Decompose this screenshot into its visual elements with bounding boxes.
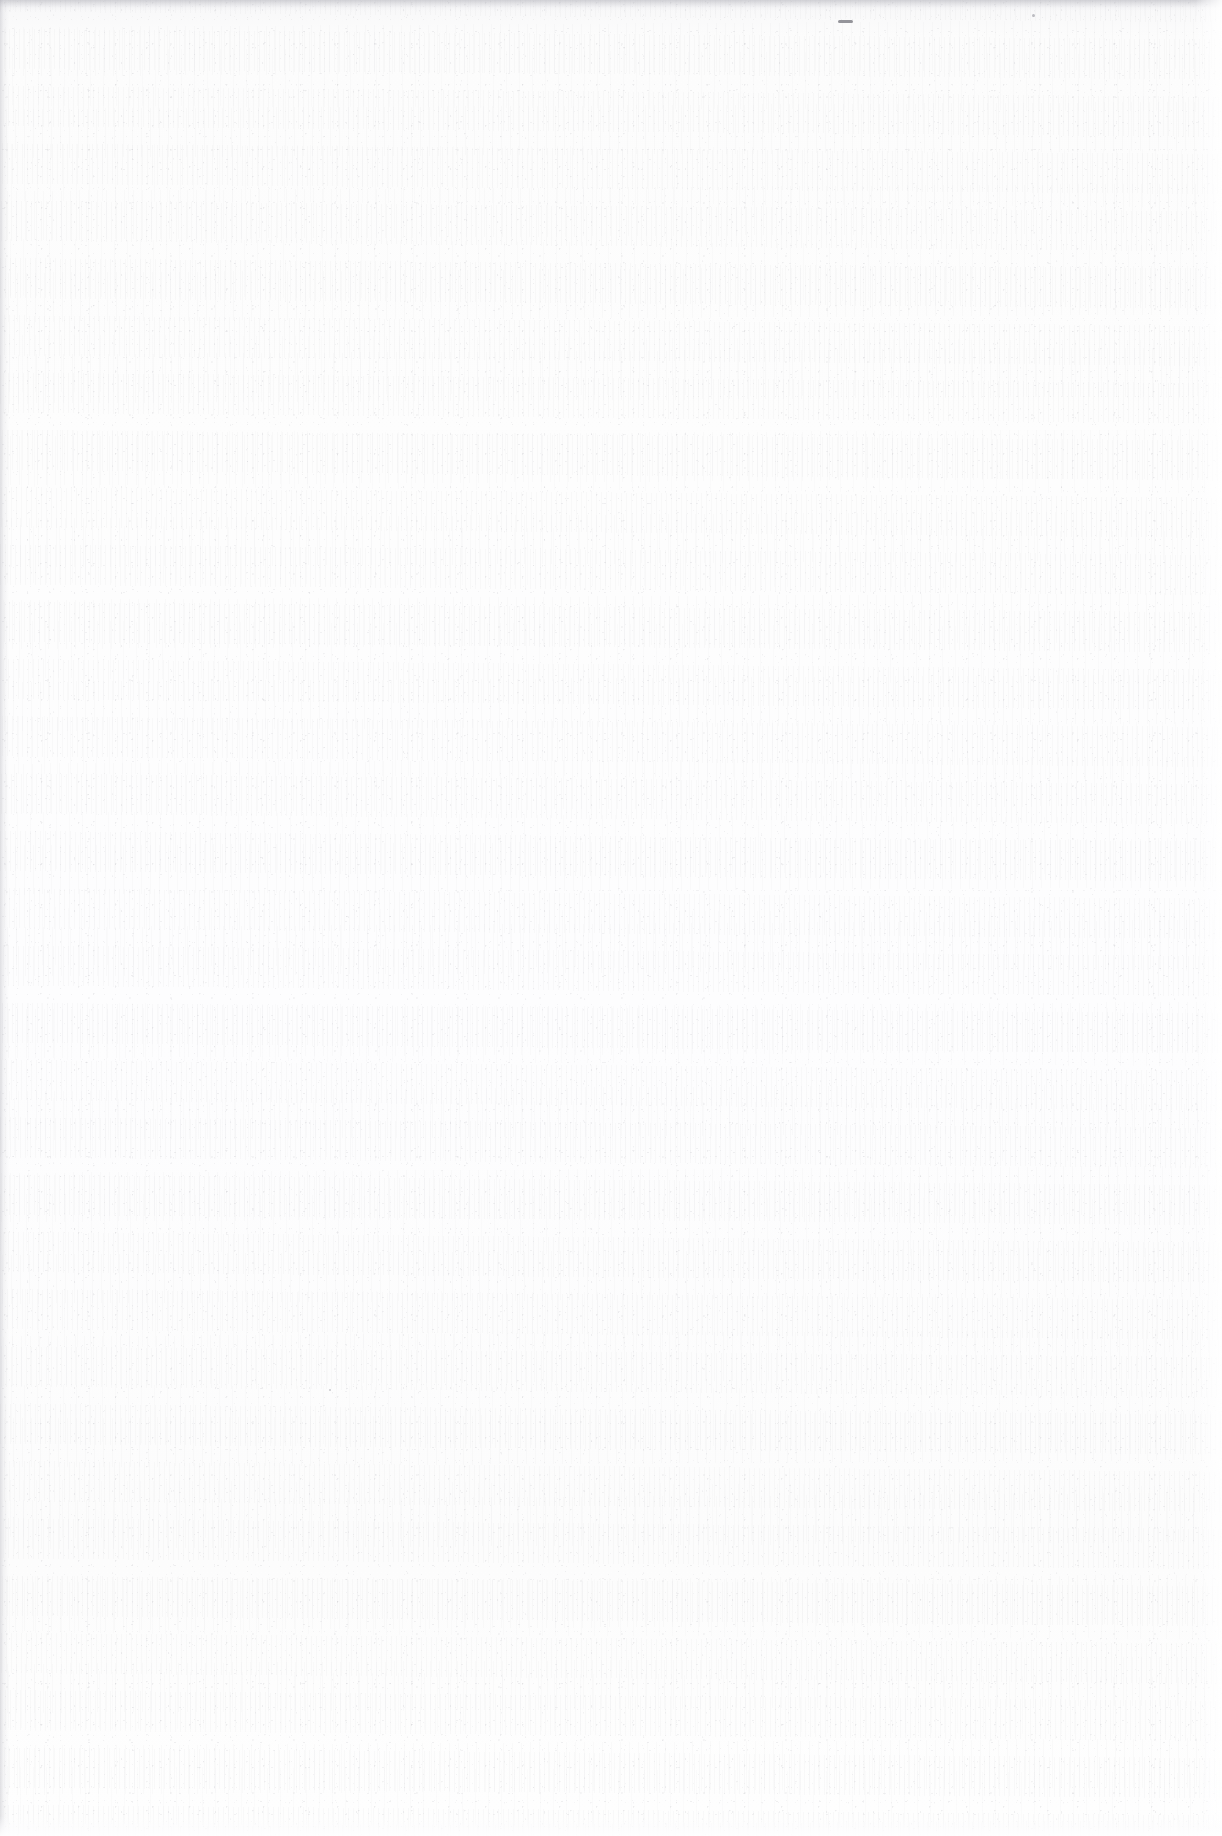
scan-speck-artifact-tertiary	[329, 1389, 331, 1391]
scanned-page: Blank scanned document page with paper g…	[0, 0, 1222, 1836]
page-left-edge-shadow	[0, 0, 9, 1836]
page-right-margin-highlight	[1194, 0, 1222, 1836]
paper-micro-noise	[0, 0, 1222, 1836]
scan-speck-artifact	[838, 20, 853, 23]
page-bottom-edge-highlight	[0, 1816, 1222, 1836]
scan-speck-artifact-secondary	[1032, 14, 1035, 17]
scanner-top-edge-shadow	[0, 0, 1222, 11]
